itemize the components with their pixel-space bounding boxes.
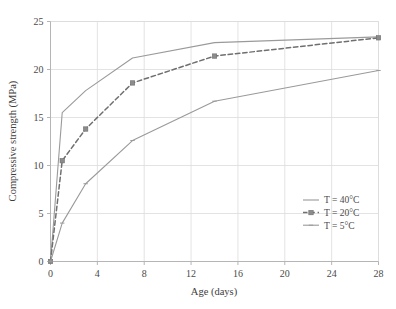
y-tick-label: 15 [34,112,44,123]
x-tick-label: 24 [327,268,337,279]
x-tick-label: 16 [233,268,243,279]
x-tick-label: 4 [95,268,100,279]
data-point-marker [212,54,216,58]
y-tick-label: 0 [39,256,44,267]
legend-label: T = 20°C [324,208,359,218]
x-axis-title: Age (days) [191,286,238,298]
legend-label: T = 40°C [324,195,359,205]
data-point-marker [83,127,87,131]
data-point-marker [130,81,134,85]
y-tick-label: 5 [39,208,44,219]
data-point-marker [60,159,64,163]
x-tick-label: 28 [374,268,384,279]
y-axis-title: Compressive strength (MPa) [7,80,19,201]
legend-label: T = 5°C [324,221,355,231]
x-tick-label: 8 [142,268,147,279]
chart-figure: 0481216202428 0510152025 T = 40°CT = 20°… [0,0,396,309]
data-point-marker [376,36,380,40]
y-tick-label: 25 [34,16,44,27]
x-tick-label: 0 [48,268,53,279]
x-tick-label: 12 [186,268,196,279]
line-chart: 0481216202428 0510152025 T = 40°CT = 20°… [0,0,396,309]
legend-marker [309,210,313,214]
x-tick-label: 20 [280,268,290,279]
y-tick-label: 20 [34,64,44,75]
y-tick-label: 10 [34,160,44,171]
